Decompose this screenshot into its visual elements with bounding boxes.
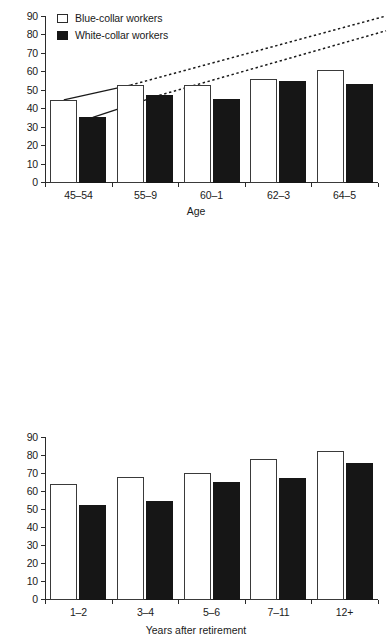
y-axis-tick-mark [41, 90, 45, 91]
x-axis-tick-mark [45, 600, 46, 604]
y-axis-tick-label: 50 [27, 85, 38, 95]
y-axis-tick-mark [41, 53, 45, 54]
x-axis-tick-mark [45, 183, 46, 187]
y-axis-tick-mark [41, 563, 45, 564]
legend-item-label: White-collar workers [75, 30, 168, 41]
bar-white-collar [279, 478, 306, 600]
bar-white-collar [146, 501, 173, 600]
y-axis-tick-mark [41, 581, 45, 582]
x-axis-title-years-after-retirement: Years after retirement [0, 625, 392, 636]
legend-item: Blue-collar workers [57, 11, 168, 25]
x-axis-category-label: 62–3 [245, 190, 312, 201]
x-axis-category-label: 55–9 [112, 190, 179, 201]
y-axis-tick-mark [41, 437, 45, 438]
legend-swatch-blue-collar [57, 14, 68, 23]
trend-line-dashed-extension [130, 16, 386, 85]
y-axis-tick-mark [41, 527, 45, 528]
y-axis-tick-mark [41, 108, 45, 109]
y-axis-line [45, 16, 46, 183]
bar-blue-collar [250, 459, 277, 600]
y-axis-tick-mark [41, 145, 45, 146]
bar-white-collar [146, 95, 173, 183]
y-axis-tick-label: 30 [27, 122, 38, 132]
y-axis-tick-label: 20 [27, 558, 38, 568]
bar-white-collar [279, 81, 306, 183]
bar-blue-collar [184, 473, 211, 600]
x-axis-tick-mark [245, 600, 246, 604]
x-axis-tick-mark [178, 600, 179, 604]
y-axis-tick-label: 80 [27, 450, 38, 460]
y-axis-tick-label: 60 [27, 486, 38, 496]
y-axis-line [45, 437, 46, 600]
y-axis-tick-mark [41, 509, 45, 510]
y-axis-tick-label: 0 [32, 594, 38, 604]
y-axis-tick-mark [41, 491, 45, 492]
x-axis-category-label: 60–1 [178, 190, 245, 201]
bar-blue-collar [184, 85, 211, 183]
y-axis-tick-mark [41, 473, 45, 474]
bar-blue-collar [250, 79, 277, 183]
legend-swatch-white-collar [57, 31, 68, 40]
y-axis-tick-label: 10 [27, 159, 38, 169]
y-axis-tick-label: 70 [27, 48, 38, 58]
x-axis-category-label: 64–5 [311, 190, 378, 201]
plot-area-age: Blue-collar workersWhite-collar workers … [0, 0, 392, 221]
y-axis-tick-mark [41, 164, 45, 165]
y-axis-tick-label: 50 [27, 504, 38, 514]
legend-item: White-collar workers [57, 28, 168, 42]
x-axis-tick-mark [378, 600, 379, 604]
chart-panel-years-after-retirement: Years after retirement 01020304050607080… [0, 215, 392, 442]
x-axis-tick-mark [112, 600, 113, 604]
y-axis-tick-label: 0 [32, 177, 38, 187]
bar-white-collar [346, 463, 373, 600]
legend: Blue-collar workersWhite-collar workers [57, 11, 168, 45]
y-axis-tick-mark [41, 127, 45, 128]
y-axis-tick-label: 40 [27, 103, 38, 113]
y-axis-tick-label: 10 [27, 576, 38, 586]
x-axis-tick-mark [311, 183, 312, 187]
y-axis-tick-mark [41, 545, 45, 546]
y-axis-tick-mark [41, 16, 45, 17]
bar-blue-collar [50, 100, 77, 183]
x-axis-category-label: 7–11 [245, 607, 312, 618]
x-axis-tick-mark [378, 183, 379, 187]
x-axis-tick-mark [245, 183, 246, 187]
plot-area-years-after-retirement: Years after retirement 01020304050607080… [0, 215, 392, 442]
y-axis-tick-label: 90 [27, 11, 38, 21]
chart-panel-age: Blue-collar workersWhite-collar workers … [0, 0, 392, 221]
bar-blue-collar [317, 451, 344, 600]
x-axis-tick-mark [311, 600, 312, 604]
x-axis-category-label: 12+ [311, 607, 378, 618]
y-axis-tick-mark [41, 455, 45, 456]
y-axis-tick-mark [41, 71, 45, 72]
y-axis-tick-label: 70 [27, 468, 38, 478]
x-axis-tick-mark [178, 183, 179, 187]
y-axis-tick-label: 40 [27, 522, 38, 532]
legend-item-label: Blue-collar workers [75, 13, 162, 24]
x-axis-tick-mark [112, 183, 113, 187]
y-axis-tick-label: 80 [27, 29, 38, 39]
y-axis-tick-label: 20 [27, 140, 38, 150]
bar-white-collar [213, 99, 240, 183]
x-axis-category-label: 1–2 [45, 607, 112, 618]
bar-white-collar [213, 482, 240, 600]
bar-white-collar [79, 505, 106, 600]
bar-white-collar [346, 84, 373, 183]
y-axis-tick-mark [41, 34, 45, 35]
x-axis-category-label: 45–54 [45, 190, 112, 201]
bar-blue-collar [117, 477, 144, 600]
bar-white-collar [79, 117, 106, 183]
bar-blue-collar [117, 85, 144, 183]
y-axis-tick-label: 90 [27, 432, 38, 442]
y-axis-tick-label: 30 [27, 540, 38, 550]
y-axis-tick-label: 60 [27, 66, 38, 76]
bar-blue-collar [50, 484, 77, 600]
x-axis-category-label: 3–4 [112, 607, 179, 618]
x-axis-category-label: 5–6 [178, 607, 245, 618]
bar-blue-collar [317, 70, 344, 183]
